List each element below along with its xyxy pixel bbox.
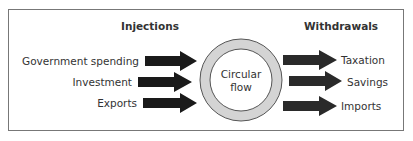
- withdrawal-savings: Savings: [347, 76, 388, 88]
- injection-government-spending: Government spending: [0, 55, 139, 67]
- injection-investment: Investment: [0, 76, 132, 88]
- arrow-right-icon: [289, 71, 342, 91]
- arrow-right-icon: [138, 72, 192, 92]
- injection-exports: Exports: [0, 97, 137, 109]
- arrow-right-icon: [145, 51, 197, 71]
- withdrawal-imports: Imports: [341, 100, 381, 112]
- circular-flow-label-line1: Circular: [211, 68, 271, 81]
- arrow-right-icon: [283, 50, 337, 70]
- arrow-right-icon: [143, 93, 197, 113]
- arrow-right-icon: [283, 96, 337, 116]
- circular-flow-label-line2: flow: [211, 81, 271, 94]
- circular-flow-label: Circular flow: [211, 68, 271, 93]
- circular-flow-diagram: [0, 0, 413, 141]
- withdrawal-taxation: Taxation: [341, 54, 385, 66]
